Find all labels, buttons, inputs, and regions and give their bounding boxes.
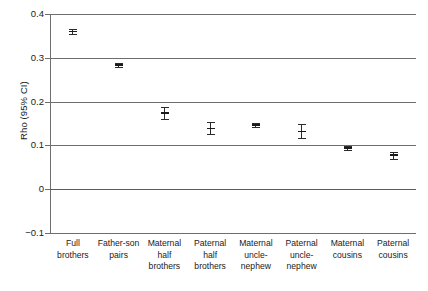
point-marker [115,64,123,66]
x-axis-labels: Full brothersFather-sonpairsMaternalhalf… [50,238,416,286]
error-bar-cap-lower [344,150,352,151]
point-marker [69,31,77,33]
x-axis-label-line: Paternal half [188,238,232,261]
gridline [50,189,416,190]
error-bar-cap-lower [161,119,169,120]
x-axis-label-line: nephew [280,261,324,273]
point-marker [298,131,306,133]
x-axis-label: Paternalcousins [370,238,416,286]
x-axis-label: Father-sonpairs [96,238,142,286]
y-axis-tick-label: 0.3 [4,53,44,63]
plot-area [50,14,416,233]
x-axis-label-line: Father-son [97,238,141,250]
point-marker [161,112,169,114]
point-marker [344,147,352,149]
x-axis-label-line: pairs [97,250,141,262]
x-axis-label: Paternal halfbrothers [187,238,233,286]
error-bar-cap-upper [390,152,398,153]
x-axis-label: Maternalhalf brothers [142,238,188,286]
x-axis-label-line: Paternal [371,238,415,250]
point-marker [390,154,398,156]
y-axis-tick-label: 0.4 [4,9,44,19]
gridline [50,145,416,146]
x-axis-label-line: Maternal [326,238,370,250]
error-bar-cap-lower [298,138,306,139]
x-axis-label-line: uncle- [280,250,324,262]
x-axis-label-line: Maternal [234,238,278,250]
gridline [50,102,416,103]
error-bar-cap-lower [115,67,123,68]
x-axis-label-line: half brothers [143,250,187,273]
error-bar-cap-upper [298,124,306,125]
x-axis-label-line: brothers [188,261,232,273]
y-axis-tick-label: 0.2 [4,97,44,107]
gridline [50,58,416,59]
point-marker [207,128,215,130]
x-axis-label: Maternalcousins [325,238,371,286]
x-axis-label-line: Paternal [280,238,324,250]
gridline [50,233,416,234]
point-marker [252,124,260,126]
x-axis-label-line: Maternal [143,238,187,250]
relatedness-rho-chart: Rho (95% CI) 0.40.30.20.10−0.1 Full brot… [0,0,428,291]
x-axis-label: Paternaluncle-nephew [279,238,325,286]
x-axis-label: Full brothers [50,238,96,286]
error-bar-cap-upper [207,122,215,123]
x-axis-label: Maternaluncle-nephew [233,238,279,286]
x-axis-label-line: cousins [326,250,370,262]
y-axis-tick-label: 0.1 [4,140,44,150]
x-axis-label-line: Full brothers [51,238,95,261]
y-axis-tick-label: −0.1 [4,228,44,238]
error-bar-cap-upper [161,107,169,108]
gridline [50,14,416,15]
x-axis-label-line: uncle- [234,250,278,262]
y-axis-tick-label: 0 [4,184,44,194]
error-bar-cap-lower [207,134,215,135]
x-axis-label-line: nephew [234,261,278,273]
x-axis-label-line: cousins [371,250,415,262]
error-bar-cap-lower [69,34,77,35]
error-bar-cap-lower [390,159,398,160]
error-bar-cap-lower [252,127,260,128]
